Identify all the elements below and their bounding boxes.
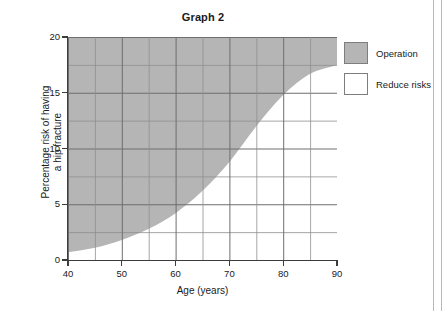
x-axis-tick-label: 90 <box>317 268 357 279</box>
figure: Graph 2 05101520 405060708090 Age (years… <box>0 0 445 311</box>
y-axis-title-line-2: a hip fracture <box>52 27 64 257</box>
x-axis-tick-label: 40 <box>48 268 88 279</box>
legend-item-operation: Operation <box>344 42 439 64</box>
plot-area <box>68 37 337 260</box>
x-axis-tick-label: 50 <box>102 268 142 279</box>
y-axis-title-line-1: Percentage risk of having <box>40 86 51 199</box>
x-axis-tick <box>229 261 230 266</box>
legend-swatch-reduce-risks <box>344 73 368 95</box>
page-rule-outer <box>441 0 442 311</box>
x-axis-tick <box>121 261 122 266</box>
y-axis-tick <box>62 259 67 260</box>
legend-label-operation: Operation <box>376 48 418 59</box>
legend-item-reduce-risks: Reduce risks <box>344 73 439 95</box>
x-axis-tick-label: 80 <box>263 268 303 279</box>
plot-svg <box>68 37 337 260</box>
x-axis-tick <box>283 261 284 266</box>
x-axis-tick <box>336 261 337 266</box>
legend-swatch-operation <box>344 42 368 64</box>
x-axis-title: Age (years) <box>68 285 337 296</box>
x-axis-line <box>67 260 338 261</box>
x-axis-tick-label: 70 <box>209 268 249 279</box>
legend-label-reduce-risks: Reduce risks <box>376 79 431 90</box>
x-axis-tick <box>67 261 68 266</box>
y-axis-title: Percentage risk of having a hip fracture <box>40 27 64 257</box>
y-axis-line <box>67 36 68 261</box>
x-axis-tick-label: 60 <box>156 268 196 279</box>
legend: Operation Reduce risks <box>344 42 439 104</box>
x-axis-tick <box>175 261 176 266</box>
chart-title: Graph 2 <box>68 11 338 24</box>
